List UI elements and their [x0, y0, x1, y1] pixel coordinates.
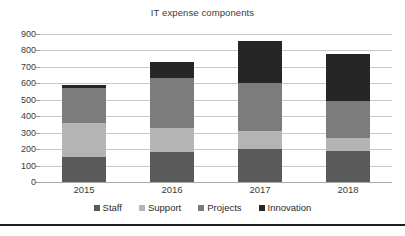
- legend-item-staff[interactable]: Staff: [94, 203, 122, 213]
- chart-card: IT expense components 900800700600500400…: [0, 0, 405, 222]
- bar-segment-2015-projects[interactable]: [62, 88, 106, 123]
- bar-segment-2018-innovation[interactable]: [326, 54, 370, 102]
- legend-item-support[interactable]: Support: [139, 203, 181, 213]
- bars-layer: [40, 34, 392, 182]
- chart-title: IT expense components: [0, 7, 405, 18]
- legend-label: Innovation: [268, 203, 312, 213]
- x-tick-label-2015: 2015: [40, 184, 128, 195]
- legend-item-projects[interactable]: Projects: [198, 203, 241, 213]
- y-axis: 9008007006005004003002001000: [0, 34, 36, 182]
- bottom-divider: [0, 224, 405, 226]
- legend-item-innovation[interactable]: Innovation: [259, 203, 312, 213]
- legend-swatch-icon-innovation: [259, 205, 265, 211]
- bar-group-2016[interactable]: [150, 34, 194, 182]
- bar-segment-2017-projects[interactable]: [238, 83, 282, 132]
- y-tick-label-600: 600: [0, 79, 36, 88]
- y-tick-label-500: 500: [0, 95, 36, 104]
- bar-segment-2017-support[interactable]: [238, 131, 282, 149]
- bar-segment-2018-projects[interactable]: [326, 101, 370, 137]
- bar-segment-2018-support[interactable]: [326, 138, 370, 151]
- y-tick-label-800: 800: [0, 46, 36, 55]
- legend-swatch-icon-staff: [94, 205, 100, 211]
- gridline-0: [40, 182, 392, 183]
- bar-segment-2017-innovation[interactable]: [238, 41, 282, 82]
- legend-label: Support: [148, 203, 181, 213]
- y-tick-label-300: 300: [0, 128, 36, 137]
- chart-legend: StaffSupportProjectsInnovation: [0, 201, 405, 215]
- bar-stack-2015: [62, 85, 106, 182]
- legend-label: Staff: [103, 203, 122, 213]
- legend-label: Projects: [207, 203, 241, 213]
- bar-segment-2016-projects[interactable]: [150, 78, 194, 127]
- bar-segment-2016-innovation[interactable]: [150, 62, 194, 78]
- bar-segment-2015-support[interactable]: [62, 123, 106, 158]
- bar-group-2017[interactable]: [238, 34, 282, 182]
- y-tick-label-900: 900: [0, 30, 36, 39]
- legend-swatch-icon-projects: [198, 205, 204, 211]
- bar-segment-2016-support[interactable]: [150, 128, 194, 153]
- bar-segment-2018-staff[interactable]: [326, 151, 370, 182]
- x-axis: 2015201620172018: [40, 184, 392, 200]
- bar-stack-2018: [326, 54, 370, 182]
- bar-group-2015[interactable]: [62, 34, 106, 182]
- bar-stack-2017: [238, 41, 282, 182]
- y-tick-label-0: 0: [0, 178, 36, 187]
- y-tick-label-200: 200: [0, 145, 36, 154]
- bar-segment-2017-staff[interactable]: [238, 149, 282, 182]
- y-tick-label-400: 400: [0, 112, 36, 121]
- bar-group-2018[interactable]: [326, 34, 370, 182]
- bar-stack-2016: [150, 62, 194, 182]
- bar-segment-2015-staff[interactable]: [62, 157, 106, 182]
- x-tick-label-2017: 2017: [216, 184, 304, 195]
- bar-segment-2016-staff[interactable]: [150, 152, 194, 182]
- y-tick-label-100: 100: [0, 161, 36, 170]
- y-tick-label-700: 700: [0, 62, 36, 71]
- x-tick-label-2016: 2016: [128, 184, 216, 195]
- legend-swatch-icon-support: [139, 205, 145, 211]
- x-tick-label-2018: 2018: [304, 184, 392, 195]
